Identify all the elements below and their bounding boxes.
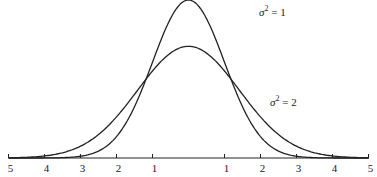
tick-label: 3 <box>296 163 302 174</box>
label-value: = 2 <box>279 96 296 108</box>
curve-variance-1 <box>9 0 369 158</box>
tick-label: 2 <box>260 163 266 174</box>
tick-label: 3 <box>80 163 86 174</box>
plot-area <box>0 0 377 177</box>
label-variance-1: σ2 = 1 <box>259 5 286 18</box>
tick-label: 5 <box>368 163 374 174</box>
tick-label: 5 <box>8 163 14 174</box>
tick-label: 4 <box>44 163 50 174</box>
curve-variance-2 <box>9 46 369 158</box>
tick-label: 1 <box>152 163 158 174</box>
tick-label: 4 <box>332 163 338 174</box>
label-variance-2: σ2 = 2 <box>270 95 297 108</box>
label-value: = 1 <box>268 6 285 18</box>
tick-label: 2 <box>116 163 122 174</box>
tick-label: 1 <box>224 163 230 174</box>
